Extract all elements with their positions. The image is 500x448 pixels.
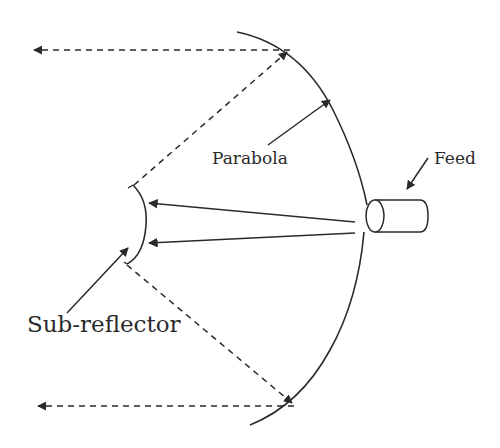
feed-horn-icon [366,200,428,232]
diagram-canvas: Parabola Feed Sub-reflector [0,0,500,448]
sub-reflector-shape [127,185,146,264]
feed-pointer-arrow [407,158,428,189]
parabola-reflector-lower [250,232,364,425]
diagram-svg [0,0,500,448]
feed-ray-upper [149,203,355,222]
parabola-reflector-upper [237,32,367,205]
parabola-pointer-arrow [268,100,330,145]
feed-label: Feed [434,150,476,167]
sub-reflector-label: Sub-reflector [27,313,181,336]
sub-reflector-pointer-arrow [67,248,128,313]
feed-ray-lower [149,233,355,243]
parabola-label: Parabola [212,150,288,167]
